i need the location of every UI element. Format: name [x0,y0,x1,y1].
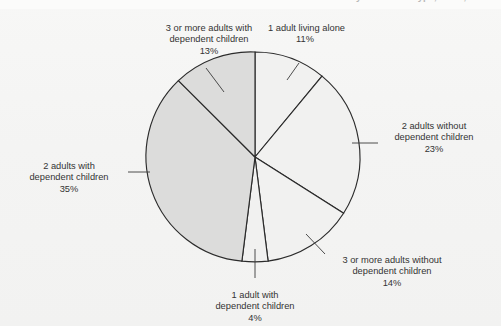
label-line-1: 1 adult living alone [268,23,345,33]
label-line-1: 3 or more adults without [342,255,441,265]
label-percent: 4% [185,313,325,324]
label-line-1: 2 adults with [43,161,95,171]
label-line-1: 3 or more adults with [166,23,252,33]
label-line-1: 1 adult with [231,290,278,300]
slice-label-one-adult-with-dependent-children: 1 adult with dependent children 4% [185,290,325,324]
label-percent: 14% [320,278,464,289]
slice-label-one-adult-living-alone: 1 adult living alone 11% [268,23,398,46]
label-percent: 13% [136,46,282,57]
pie-chart: 3 or more adults with dependent children… [0,9,501,326]
slice-label-three-plus-adults-with-dependent-children: 3 or more adults with dependent children… [136,23,282,57]
label-line-2: dependent children [394,132,473,142]
slice-label-two-adults-with-dependent-children: 2 adults with dependent children 35% [10,161,128,195]
slice-label-three-plus-adults-without-dependent-children: 3 or more adults without dependent child… [320,255,464,289]
label-line-2: dependent children [169,34,248,44]
label-line-2: dependent children [215,301,294,311]
label-percent: 11% [268,34,398,45]
label-percent: 35% [10,184,128,195]
label-line-2: dependent children [29,172,108,182]
label-line-2: dependent children [352,266,431,276]
label-percent: 23% [374,144,494,155]
label-line-1: 2 adults without [402,121,467,131]
slice-label-two-adults-without-dependent-children: 2 adults without dependent children 23% [374,121,494,155]
chart-page: …by household type, 20-21, 2012 [0,0,501,326]
